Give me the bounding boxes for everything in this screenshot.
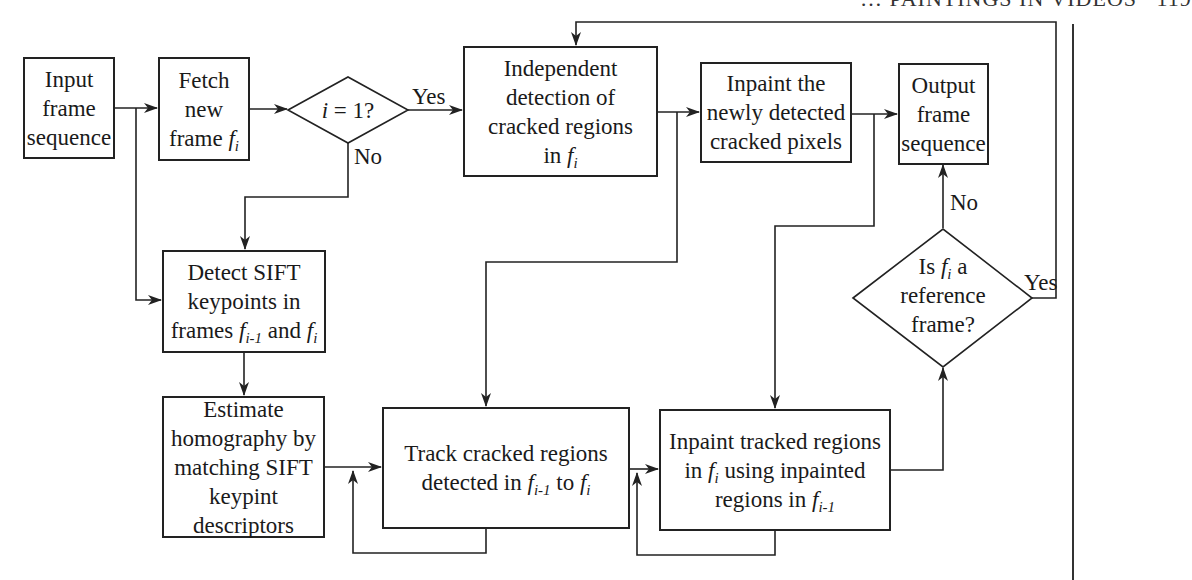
math-sub: i [586, 482, 590, 498]
detect-sift-box: Detect SIFT keypoints in frames fi-1 and… [162, 250, 326, 353]
node-text: frame [27, 94, 111, 123]
page-number: 119 [1157, 0, 1192, 11]
input-frame-sequence-box: Input frame sequence [23, 57, 115, 159]
d2-yes-label: Yes [1024, 270, 1057, 296]
d2-no-label: No [950, 190, 978, 216]
node-text: reference [888, 281, 998, 310]
node-text: Fetch [169, 66, 239, 95]
node-text: keypint [171, 482, 316, 511]
node-text: Input [27, 65, 111, 94]
node-text: detection of [488, 83, 633, 112]
node-text: Inpaint the [707, 69, 846, 98]
node-text: Independent [488, 54, 633, 83]
node-text: in [684, 458, 708, 483]
node-text: Detect SIFT [171, 258, 318, 287]
output-frame-sequence-box: Output frame sequence [898, 63, 989, 165]
node-text: descriptors [171, 511, 316, 540]
node-text: matching SIFT [171, 453, 316, 482]
math-sub: i-1 [818, 499, 835, 515]
node-text: frame [169, 126, 223, 151]
d1-yes-label: Yes [412, 84, 445, 110]
node-text: in [543, 143, 567, 168]
node-text: to [551, 470, 580, 495]
track-cracked-regions-box: Track cracked regions detected in fi-1 t… [382, 407, 630, 529]
inpaint-newly-detected-box: Inpaint the newly detected cracked pixel… [700, 62, 852, 163]
d1-no-label: No [354, 144, 382, 170]
fetch-new-frame-box: Fetch new frame fi [158, 57, 250, 161]
node-text: Track cracked regions [404, 439, 608, 468]
node-text: frame? [888, 310, 998, 339]
node-text: new [169, 95, 239, 124]
node-text: = 1? [328, 98, 374, 123]
node-text: and [262, 318, 307, 343]
inpaint-tracked-regions-box: Inpaint tracked regions in fi using inpa… [659, 409, 891, 531]
node-text: frame [901, 100, 985, 129]
node-text: cracked pixels [707, 127, 846, 156]
node-text: homography by [171, 424, 316, 453]
node-text: using inpainted [719, 458, 866, 483]
node-text: Estimate [171, 395, 316, 424]
node-text: Output [901, 71, 985, 100]
math-sub: i [573, 155, 577, 171]
node-text: Is [919, 254, 941, 279]
node-text: frames [171, 318, 239, 343]
node-text: newly detected [707, 98, 846, 127]
node-text: a [951, 254, 967, 279]
math-sub: i [235, 138, 239, 154]
independent-detection-box: Independent detection of cracked regions… [463, 46, 658, 177]
node-text: regions in [715, 487, 812, 512]
math-sub: i-1 [534, 482, 551, 498]
math-sub: i [313, 330, 317, 346]
node-text: Inpaint tracked regions [669, 427, 881, 456]
node-text: detected in [421, 470, 527, 495]
node-text: sequence [901, 129, 985, 158]
node-text: cracked regions [488, 112, 633, 141]
node-text: keypoints in [171, 287, 318, 316]
decision-i-equals-1: i = 1? [308, 96, 388, 125]
node-text: sequence [27, 123, 111, 152]
estimate-homography-box: Estimate homography by matching SIFT key… [162, 396, 325, 538]
decision-is-reference-frame: Is fi a reference frame? [888, 252, 998, 339]
math-sub: i-1 [245, 330, 262, 346]
